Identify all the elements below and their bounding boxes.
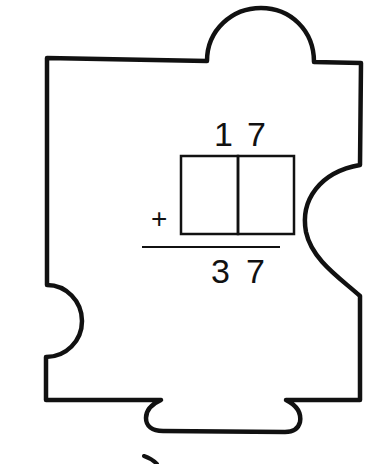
answer-box-ones[interactable]	[238, 156, 294, 234]
answer-box-tens[interactable]	[181, 156, 238, 234]
puzzle-piece-worksheet: 1 7 + 3 7	[0, 0, 369, 464]
missing-addend-boxes[interactable]	[181, 156, 294, 234]
sum-digit-tens: 3	[211, 252, 230, 290]
cropped-mark	[144, 456, 157, 464]
plus-sign: +	[151, 203, 167, 234]
top-digit-ones: 7	[247, 115, 266, 153]
sum-digit-ones: 7	[246, 252, 265, 290]
top-digit-tens: 1	[214, 115, 233, 153]
puzzle-piece-outline	[46, 8, 361, 432]
